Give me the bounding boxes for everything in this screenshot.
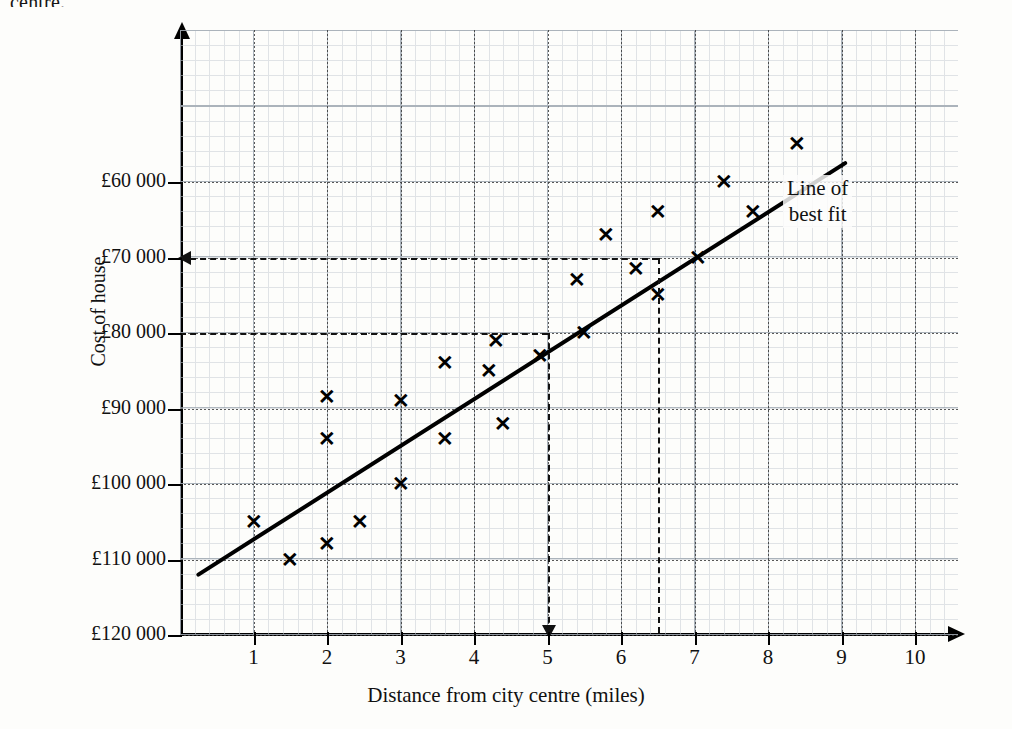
data-point-marker: ✕ — [244, 512, 264, 532]
construction-line-horizontal — [180, 258, 658, 260]
y-axis-tick-label-wrap: £110 000 — [0, 548, 166, 568]
x-axis-tick — [548, 632, 550, 645]
y-axis-tick — [168, 409, 182, 411]
x-axis-tick-label: 2 — [307, 645, 347, 670]
data-point-marker: ✕ — [391, 391, 411, 411]
x-axis-tick — [915, 632, 917, 645]
y-axis-tick-label-wrap: £70 000 — [0, 246, 166, 266]
cut-off-heading: centre. — [10, 0, 65, 7]
y-axis-tick — [168, 484, 182, 486]
data-point-marker: ✕ — [596, 225, 616, 245]
construction-line-vertical — [658, 258, 660, 634]
data-point-marker: ✕ — [714, 172, 734, 192]
data-point-marker: ✕ — [435, 429, 455, 449]
x-axis-tick-label: 3 — [381, 645, 421, 670]
plot-area: ✕✕✕✕✕✕✕✕✕✕✕✕✕✕✕✕✕✕✕✕✕✕✕✕ — [180, 30, 958, 635]
y-axis-tick — [168, 182, 182, 184]
data-point-marker: ✕ — [317, 534, 337, 554]
data-point-marker: ✕ — [626, 259, 646, 279]
x-axis-tick — [768, 632, 770, 645]
x-axis-tick-label: 5 — [528, 645, 568, 670]
data-point-marker: ✕ — [743, 202, 763, 222]
line-of-best-fit-label: Line of best fit — [783, 175, 852, 228]
data-point-marker: ✕ — [574, 323, 594, 343]
y-axis-tick-label: £110 000 — [0, 548, 166, 568]
x-axis-tick — [401, 632, 403, 645]
y-axis-title: Cost of house — [87, 182, 110, 442]
data-point-marker: ✕ — [787, 134, 807, 154]
construction-line-horizontal — [180, 333, 548, 335]
x-axis-tick-label: 9 — [822, 645, 862, 670]
y-axis-tick — [168, 560, 182, 562]
x-axis-tick — [695, 632, 697, 645]
x-axis-title: Distance from city centre (miles) — [0, 683, 1012, 708]
x-axis-tick — [474, 632, 476, 645]
x-axis-tick-label: 10 — [895, 645, 935, 670]
y-axis-tick-label-wrap: £90 000 — [0, 397, 166, 417]
data-point-marker: ✕ — [317, 429, 337, 449]
construction-line-vertical — [548, 333, 550, 633]
y-axis-tick-label-wrap: £60 000 — [0, 170, 166, 190]
data-point-marker: ✕ — [317, 387, 337, 407]
x-axis-tick — [254, 632, 256, 645]
x-axis-tick-label: 1 — [234, 645, 274, 670]
y-axis-tick-label-wrap: £100 000 — [0, 472, 166, 492]
x-axis-tick — [621, 632, 623, 645]
y-axis-tick-label: £100 000 — [0, 472, 166, 492]
x-axis-tick — [842, 632, 844, 645]
y-axis-tick-label: £90 000 — [0, 397, 166, 417]
data-point-marker: ✕ — [688, 248, 708, 268]
graph-sheet: centre. ✕✕✕✕✕✕✕✕✕✕✕✕✕✕✕✕✕✕✕✕✕✕✕✕ £60 000… — [0, 0, 1012, 729]
x-axis-tick-label: 7 — [675, 645, 715, 670]
data-point-marker: ✕ — [493, 414, 513, 434]
x-axis-tick-label: 6 — [601, 645, 641, 670]
y-axis-tick-label-wrap: £120 000 — [0, 623, 166, 643]
y-axis-tick — [168, 635, 182, 637]
data-point-marker: ✕ — [648, 202, 668, 222]
y-axis-tick-label: £60 000 — [0, 170, 166, 190]
x-axis-tick — [327, 632, 329, 645]
x-axis-tick-label: 8 — [748, 645, 788, 670]
x-axis-tick-label: 4 — [454, 645, 494, 670]
data-point-marker: ✕ — [567, 270, 587, 290]
data-point-marker: ✕ — [350, 512, 370, 532]
y-axis-tick — [168, 333, 182, 335]
y-axis-tick-label: £120 000 — [0, 623, 166, 643]
y-axis-tick-label: £70 000 — [0, 246, 166, 266]
data-point-marker: ✕ — [280, 550, 300, 570]
y-axis-tick-label: £80 000 — [0, 321, 166, 341]
data-point-marker: ✕ — [391, 474, 411, 494]
y-axis-tick — [168, 258, 182, 260]
y-axis-tick-label-wrap: £80 000 — [0, 321, 166, 341]
data-point-marker: ✕ — [479, 361, 499, 381]
data-point-marker: ✕ — [435, 353, 455, 373]
